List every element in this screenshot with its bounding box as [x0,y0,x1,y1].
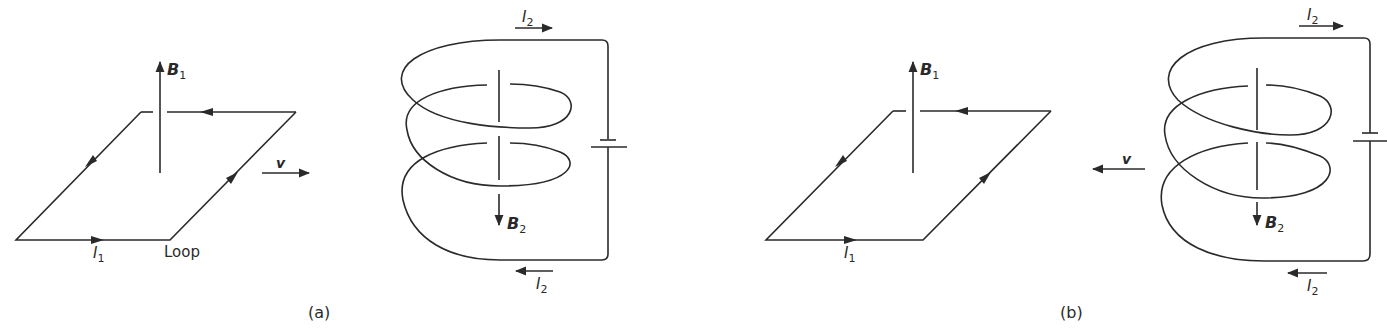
panel-b: B1 I1 v B2 I2 I2 (b) [766,6,1387,322]
velocity-label: v [1122,151,1132,167]
b1-label: B1 [167,60,186,82]
velocity-label: v [276,155,286,171]
current-arrow-icon [200,108,213,116]
current-arrow-icon [835,155,847,167]
i2-top-label: I2 [1307,6,1318,27]
loop-label: Loop [164,243,200,261]
diagram-canvas: B1 I1 Loop v B2 I2 [0,0,1387,336]
loop-b [766,107,1051,244]
current-arrow-icon [844,236,857,244]
i1-label: I1 [93,244,104,265]
caption-b: (b) [1060,303,1083,322]
caption-a: (a) [308,303,330,322]
i2-bottom-label: I2 [536,275,547,296]
current-arrow-icon [91,236,104,244]
b2-label: B2 [1265,213,1284,235]
solenoid-a: B2 I2 I2 [401,8,627,296]
i2-bottom-label: I2 [1307,277,1318,298]
panel-a: B1 I1 Loop v B2 I2 [16,8,627,322]
i1-label: I1 [844,244,855,265]
loop-a [16,108,296,244]
i2-top-label: I2 [522,8,533,29]
current-arrow-icon [85,155,97,167]
current-arrow-icon [955,107,968,115]
b1-label: B1 [920,60,939,82]
b2-label: B2 [507,214,526,236]
solenoid-b: B2 I2 I2 [1161,6,1387,298]
